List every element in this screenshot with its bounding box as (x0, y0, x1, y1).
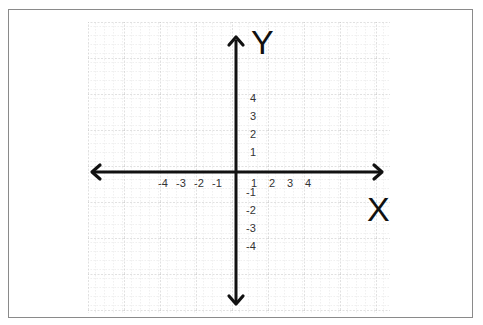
y-tick-label: 3 (250, 110, 256, 122)
y-tick-label: 4 (250, 92, 256, 104)
y-tick-label: 2 (250, 128, 256, 140)
x-tick-label: 2 (269, 177, 275, 189)
coordinate-plane: Y X -4 -3 -2 -1 1 2 3 4 4 3 2 1 -1 -2 -3… (0, 0, 483, 325)
y-tick-label: -4 (246, 240, 256, 252)
y-tick-label: -2 (246, 204, 256, 216)
x-tick-label: -3 (176, 177, 186, 189)
y-tick-label: 1 (250, 146, 256, 158)
y-tick-label: -1 (246, 186, 256, 198)
y-axis-title: Y (251, 23, 274, 61)
x-tick-label: 4 (305, 177, 311, 189)
grid (88, 22, 390, 313)
x-tick-label: -1 (212, 177, 222, 189)
x-tick-label: -2 (194, 177, 204, 189)
x-tick-label: -4 (158, 177, 168, 189)
y-tick-label: -3 (246, 222, 256, 234)
x-tick-label: 3 (287, 177, 293, 189)
x-axis-title: X (367, 190, 390, 228)
